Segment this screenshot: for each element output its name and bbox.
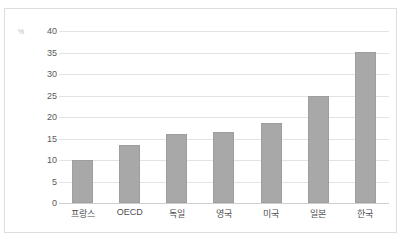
- bar-한국[interactable]: [355, 52, 376, 203]
- bar-OECD[interactable]: [119, 145, 140, 203]
- gridline: [59, 203, 389, 204]
- y-axis-tick: 0: [52, 198, 57, 208]
- bar-일본[interactable]: [308, 96, 329, 203]
- y-axis-tick: 20: [47, 112, 57, 122]
- clipped-text-fragment: · · —— ··· ————: [0, 0, 94, 3]
- x-axis-tick: 미국: [248, 207, 295, 220]
- bar-slot: [59, 31, 106, 203]
- y-axis-tick: 35: [47, 48, 57, 58]
- plot-area: % 0510152025303540 프랑스OECD독일영국미국일본한국: [5, 9, 398, 234]
- y-axis-tick-labels: 0510152025303540: [19, 31, 57, 203]
- y-axis-tick: 5: [52, 177, 57, 187]
- bar-series: [59, 31, 389, 203]
- y-axis-tick: 15: [47, 134, 57, 144]
- x-axis-tick: 한국: [342, 207, 389, 220]
- bar-미국[interactable]: [261, 123, 282, 203]
- x-axis-tick: 영국: [200, 207, 247, 220]
- x-axis-tick: 독일: [153, 207, 200, 220]
- y-axis-tick: 30: [47, 69, 57, 79]
- y-axis-tick: 25: [47, 91, 57, 101]
- bar-영국[interactable]: [213, 132, 234, 203]
- y-axis-tick: 40: [47, 26, 57, 36]
- x-axis-tick: 일본: [295, 207, 342, 220]
- bar-slot: [342, 31, 389, 203]
- bar-slot: [200, 31, 247, 203]
- bar-slot: [248, 31, 295, 203]
- x-axis-tick: OECD: [106, 207, 153, 220]
- bar-독일[interactable]: [166, 134, 187, 203]
- bar-slot: [153, 31, 200, 203]
- bar-slot: [106, 31, 153, 203]
- x-axis-tick: 프랑스: [59, 207, 106, 220]
- bar-slot: [295, 31, 342, 203]
- y-axis-tick: 10: [47, 155, 57, 165]
- x-axis-category-labels: 프랑스OECD독일영국미국일본한국: [59, 207, 389, 220]
- chart-frame: % 0510152025303540 프랑스OECD독일영국미국일본한국: [4, 8, 397, 233]
- bar-프랑스[interactable]: [72, 160, 93, 203]
- clipped-text-artifact: · · —— ··· ————: [0, 0, 403, 6]
